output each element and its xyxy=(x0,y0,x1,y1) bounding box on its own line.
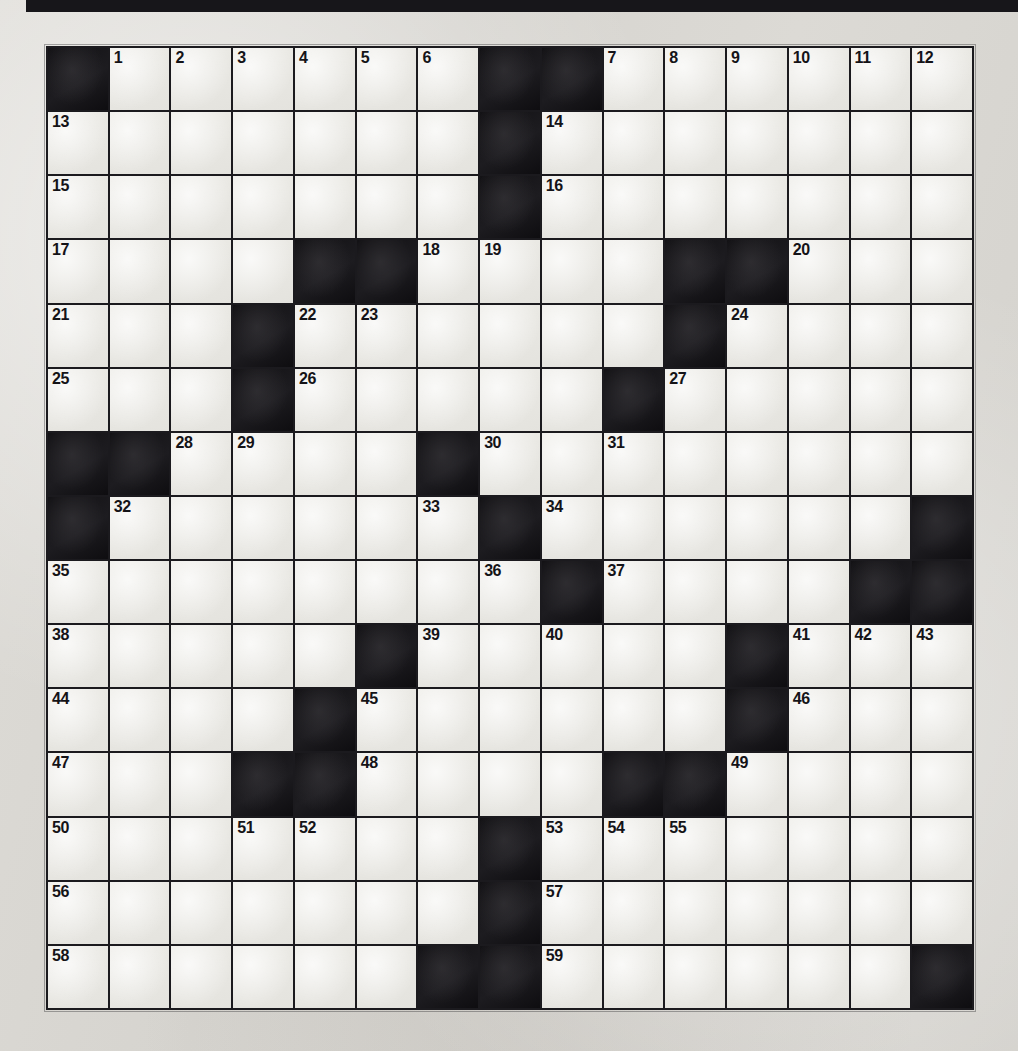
crossword-cell-13[interactable]: 13 xyxy=(48,112,110,176)
crossword-cell-40[interactable]: 40 xyxy=(542,625,604,689)
crossword-cell[interactable] xyxy=(233,176,295,240)
crossword-cell-55[interactable]: 55 xyxy=(665,818,727,882)
crossword-cell[interactable] xyxy=(233,625,295,689)
crossword-cell[interactable] xyxy=(295,561,357,625)
crossword-cell[interactable] xyxy=(604,689,666,753)
crossword-cell[interactable] xyxy=(727,369,789,433)
crossword-cell[interactable] xyxy=(851,305,913,369)
crossword-cell[interactable] xyxy=(851,818,913,882)
crossword-cell-53[interactable]: 53 xyxy=(542,818,604,882)
crossword-cell[interactable] xyxy=(357,112,419,176)
crossword-cell[interactable] xyxy=(665,497,727,561)
crossword-cell[interactable] xyxy=(295,112,357,176)
crossword-cell-10[interactable]: 10 xyxy=(789,48,851,112)
crossword-cell[interactable] xyxy=(110,112,172,176)
crossword-cell[interactable] xyxy=(110,240,172,304)
crossword-cell[interactable] xyxy=(110,882,172,946)
crossword-cell[interactable] xyxy=(171,176,233,240)
crossword-cell[interactable] xyxy=(171,369,233,433)
crossword-cell[interactable] xyxy=(171,882,233,946)
crossword-cell[interactable] xyxy=(789,753,851,817)
crossword-cell-3[interactable]: 3 xyxy=(233,48,295,112)
crossword-cell[interactable] xyxy=(789,176,851,240)
crossword-cell[interactable] xyxy=(665,625,727,689)
crossword-cell[interactable] xyxy=(789,112,851,176)
crossword-cell[interactable] xyxy=(912,882,974,946)
crossword-cell-57[interactable]: 57 xyxy=(542,882,604,946)
crossword-cell[interactable] xyxy=(604,882,666,946)
crossword-cell-2[interactable]: 2 xyxy=(171,48,233,112)
crossword-cell[interactable] xyxy=(110,176,172,240)
crossword-cell-9[interactable]: 9 xyxy=(727,48,789,112)
crossword-cell-29[interactable]: 29 xyxy=(233,433,295,497)
crossword-cell[interactable] xyxy=(604,176,666,240)
crossword-cell[interactable] xyxy=(851,753,913,817)
crossword-cell[interactable] xyxy=(851,689,913,753)
crossword-cell-24[interactable]: 24 xyxy=(727,305,789,369)
crossword-cell-34[interactable]: 34 xyxy=(542,497,604,561)
crossword-cell[interactable] xyxy=(727,818,789,882)
crossword-cell-41[interactable]: 41 xyxy=(789,625,851,689)
crossword-cell[interactable] xyxy=(727,497,789,561)
crossword-cell[interactable] xyxy=(912,689,974,753)
crossword-cell[interactable] xyxy=(604,497,666,561)
crossword-cell-51[interactable]: 51 xyxy=(233,818,295,882)
crossword-cell[interactable] xyxy=(110,753,172,817)
crossword-cell-16[interactable]: 16 xyxy=(542,176,604,240)
crossword-cell[interactable] xyxy=(542,753,604,817)
crossword-cell[interactable] xyxy=(604,946,666,1010)
crossword-cell[interactable] xyxy=(665,882,727,946)
crossword-cell[interactable] xyxy=(171,240,233,304)
crossword-cell[interactable] xyxy=(357,946,419,1010)
crossword-cell[interactable] xyxy=(727,946,789,1010)
crossword-cell[interactable] xyxy=(171,305,233,369)
crossword-cell[interactable] xyxy=(171,689,233,753)
crossword-cell[interactable] xyxy=(357,433,419,497)
crossword-cell-52[interactable]: 52 xyxy=(295,818,357,882)
crossword-cell[interactable] xyxy=(171,818,233,882)
crossword-cell[interactable] xyxy=(604,305,666,369)
crossword-cell-44[interactable]: 44 xyxy=(48,689,110,753)
crossword-cell[interactable] xyxy=(727,561,789,625)
crossword-cell-37[interactable]: 37 xyxy=(604,561,666,625)
crossword-cell[interactable] xyxy=(110,818,172,882)
crossword-cell[interactable] xyxy=(418,176,480,240)
crossword-cell[interactable] xyxy=(110,625,172,689)
crossword-cell[interactable] xyxy=(110,946,172,1010)
crossword-cell-56[interactable]: 56 xyxy=(48,882,110,946)
crossword-cell[interactable] xyxy=(480,625,542,689)
crossword-cell[interactable] xyxy=(418,818,480,882)
crossword-cell[interactable] xyxy=(789,946,851,1010)
crossword-cell[interactable] xyxy=(480,305,542,369)
crossword-cell[interactable] xyxy=(665,176,727,240)
crossword-cell-59[interactable]: 59 xyxy=(542,946,604,1010)
crossword-cell[interactable] xyxy=(357,561,419,625)
crossword-cell[interactable] xyxy=(665,561,727,625)
crossword-cell[interactable] xyxy=(542,433,604,497)
crossword-cell-46[interactable]: 46 xyxy=(789,689,851,753)
crossword-cell-42[interactable]: 42 xyxy=(851,625,913,689)
crossword-cell[interactable] xyxy=(110,561,172,625)
crossword-cell[interactable] xyxy=(233,112,295,176)
crossword-cell[interactable] xyxy=(295,433,357,497)
crossword-cell-23[interactable]: 23 xyxy=(357,305,419,369)
crossword-cell-54[interactable]: 54 xyxy=(604,818,666,882)
crossword-cell[interactable] xyxy=(604,240,666,304)
crossword-cell[interactable] xyxy=(912,176,974,240)
crossword-cell-18[interactable]: 18 xyxy=(418,240,480,304)
crossword-cell[interactable] xyxy=(665,946,727,1010)
crossword-cell[interactable] xyxy=(789,369,851,433)
crossword-cell[interactable] xyxy=(542,240,604,304)
crossword-cell[interactable] xyxy=(171,497,233,561)
crossword-cell[interactable] xyxy=(727,176,789,240)
crossword-cell[interactable] xyxy=(171,753,233,817)
crossword-cell[interactable] xyxy=(912,369,974,433)
crossword-cell[interactable] xyxy=(418,561,480,625)
crossword-cell[interactable] xyxy=(851,240,913,304)
crossword-cell[interactable] xyxy=(789,561,851,625)
crossword-cell[interactable] xyxy=(171,112,233,176)
crossword-cell[interactable] xyxy=(604,625,666,689)
crossword-cell[interactable] xyxy=(851,433,913,497)
crossword-cell-11[interactable]: 11 xyxy=(851,48,913,112)
crossword-cell[interactable] xyxy=(665,112,727,176)
